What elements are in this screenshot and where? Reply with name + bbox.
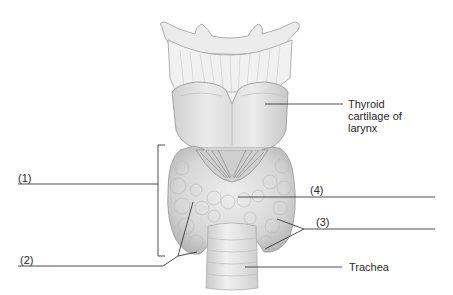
label-thyroid-cartilage-line2: cartilage of [348, 110, 438, 122]
bracket-label-1 [158, 145, 165, 256]
label-2: (2) [20, 254, 33, 266]
trachea-structure [206, 223, 258, 290]
label-thyroid-cartilage: Thyroid cartilage of larynx [348, 98, 438, 134]
label-1: (1) [18, 172, 31, 184]
label-thyroid-cartilage-line3: larynx [348, 122, 438, 134]
label-trachea: Trachea [349, 261, 389, 273]
label-thyroid-cartilage-line1: Thyroid [348, 98, 438, 110]
label-3: (3) [316, 216, 329, 228]
thyroid-anatomy-diagram: Thyroid cartilage of larynx (1) (2) (4) … [0, 0, 453, 295]
leader-label-2 [18, 256, 178, 266]
label-4: (4) [310, 184, 323, 196]
